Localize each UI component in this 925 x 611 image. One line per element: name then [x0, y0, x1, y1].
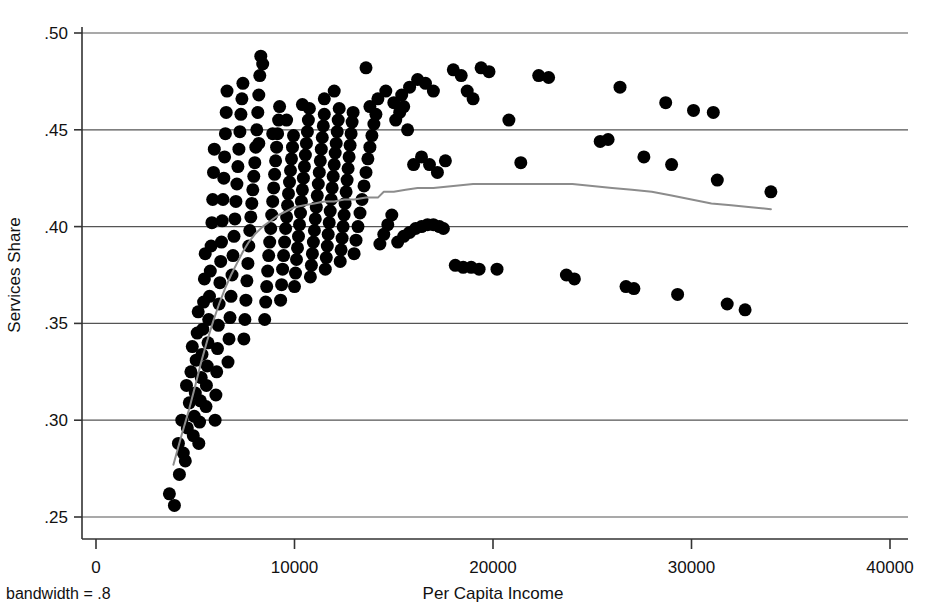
scatter-point [739, 303, 752, 316]
scatter-point [217, 193, 230, 206]
scatter-point [659, 96, 672, 109]
scatter-point [343, 150, 356, 163]
scatter-point [361, 152, 374, 165]
scatter-point [220, 106, 233, 119]
scatter-point [283, 176, 296, 189]
scatter-point [286, 141, 299, 154]
scatter-point [627, 282, 640, 295]
scatter-point [213, 276, 226, 289]
scatter-point [234, 108, 247, 121]
y-tick-label: .35 [44, 314, 68, 333]
scatter-point [332, 114, 345, 127]
scatter-point [232, 143, 245, 156]
scatter-point [483, 65, 496, 78]
scatter-point [200, 400, 213, 413]
scatter-point [427, 85, 440, 98]
x-tick-label: 40000 [866, 558, 913, 577]
scatter-point [168, 499, 181, 512]
scatter-point [253, 69, 266, 82]
scatter-point [347, 106, 360, 119]
scatter-point [335, 243, 348, 256]
scatter-point [273, 100, 286, 113]
scatter-point [228, 212, 241, 225]
scatter-point [252, 89, 265, 102]
scatter-point [301, 125, 314, 138]
chart-container: .25.30.35.40.45.50 010000200003000040000… [0, 0, 925, 611]
scatter-point [314, 154, 327, 167]
scatter-point [261, 265, 274, 278]
scatter-point [222, 356, 235, 369]
scatter-point [305, 259, 318, 272]
scatter-point [300, 137, 313, 150]
scatter-point [260, 280, 273, 293]
scatter-point [365, 129, 378, 142]
scatter-point [256, 58, 269, 71]
scatter-point [316, 131, 329, 144]
scatter-point [236, 77, 249, 90]
scatter-point [192, 437, 205, 450]
scatter-point [200, 379, 213, 392]
x-tick-label: 0 [91, 558, 100, 577]
scatter-point [229, 195, 242, 208]
scatter-point [319, 263, 332, 276]
scatter-point [262, 249, 275, 262]
scatter-point [320, 251, 333, 264]
scatter-point [602, 133, 615, 146]
scatter-point [360, 61, 373, 74]
scatter-point [282, 187, 295, 200]
scatter-point [193, 416, 206, 429]
scatter-point [279, 222, 292, 235]
scatter-point [331, 125, 344, 138]
scatter-point [288, 280, 301, 293]
scatter-point [258, 313, 271, 326]
scatter-point [237, 332, 250, 345]
scatter-point [241, 257, 254, 270]
scatter-point [294, 207, 307, 220]
scatter-point [317, 119, 330, 132]
scatter-point [326, 181, 339, 194]
scatter-point [313, 166, 326, 179]
x-tick-label: 10000 [271, 558, 318, 577]
scatter-point [289, 267, 302, 280]
scatter-point [163, 487, 176, 500]
scatter-point [707, 106, 720, 119]
y-tick-label: .50 [44, 24, 68, 43]
scatter-point [291, 241, 304, 254]
scatter-point [223, 332, 236, 345]
scatter-point [334, 255, 347, 268]
scatter-point [542, 71, 555, 84]
scatter-point [268, 168, 281, 181]
scatter-point [280, 114, 293, 127]
plot-axes [74, 27, 908, 549]
scatter-point [252, 137, 265, 150]
scatter-point [221, 85, 234, 98]
scatter-point [333, 102, 346, 115]
scatter-point [350, 234, 363, 247]
scatter-point [514, 156, 527, 169]
scatter-point [363, 141, 376, 154]
scatter-point [327, 170, 340, 183]
scatter-point [292, 230, 305, 243]
scatter-point [244, 210, 257, 223]
y-tick-label: .30 [44, 411, 68, 430]
scatter-point [179, 454, 192, 467]
scatter-point [238, 313, 251, 326]
scatter-point [721, 298, 734, 311]
scatter-point [764, 185, 777, 198]
scatter-point [231, 160, 244, 173]
scatter-point [211, 342, 224, 355]
scatter-point [247, 170, 260, 183]
scatter-point [302, 114, 315, 127]
scatter-point [275, 278, 288, 291]
scatter-point [269, 154, 282, 167]
scatter-point [315, 143, 328, 156]
scatter-point [385, 209, 398, 222]
scatter-point [173, 468, 186, 481]
scatter-point [312, 178, 325, 191]
scatter-point [379, 85, 392, 98]
scatter-point [299, 149, 312, 162]
scatter-point [358, 179, 371, 192]
scatter-point [665, 158, 678, 171]
scatter-point [284, 164, 297, 177]
scatter-point [337, 220, 350, 233]
